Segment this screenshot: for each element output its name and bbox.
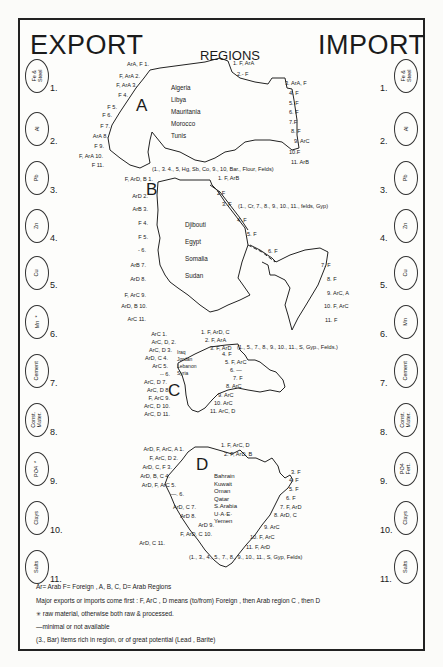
region-d-import-label: 7. F, ArD bbox=[280, 505, 301, 511]
commodity-label: Cement bbox=[34, 361, 40, 380]
commodity-label: Clays bbox=[34, 511, 40, 525]
export-commodity-number: 10. bbox=[50, 525, 63, 535]
import-commodity-oval: Pb bbox=[394, 161, 418, 195]
region-a-rich-items: (1., 3. 4., 5, Hg, Sb, Co, 9., 10, Bar.,… bbox=[152, 167, 274, 173]
region-d-import-label: 2. F, ArD, B bbox=[224, 452, 252, 458]
region-c-import-label: 9. ArC bbox=[218, 393, 234, 399]
region-d-import-label: 10. F, ArC bbox=[250, 535, 275, 541]
export-commodity-number: 8. bbox=[50, 427, 58, 437]
import-commodity-oval: Cement bbox=[394, 354, 418, 388]
export-commodity-number: 6. bbox=[50, 329, 58, 339]
region-d-import-label: 9. ArC bbox=[264, 525, 280, 531]
import-commodity-number: 1. bbox=[380, 83, 388, 93]
region-c-export-label: ArC, D 7. bbox=[144, 380, 167, 386]
import-commodity-oval: Clays bbox=[394, 501, 418, 535]
region-d-country: Yemen bbox=[214, 518, 232, 524]
import-commodity-number: 10. bbox=[380, 525, 393, 535]
import-commodity-number: 7. bbox=[380, 378, 388, 388]
region-a-import-label: 6. F bbox=[289, 110, 299, 116]
region-b-export-label: ArC 11. bbox=[127, 317, 146, 323]
region-a-import-label: 5. F bbox=[289, 101, 299, 107]
region-a-export-label: F 5. bbox=[107, 105, 117, 111]
commodity-label: Zn bbox=[403, 223, 409, 229]
import-commodity-oval: PO4 Fert. bbox=[394, 452, 418, 486]
import-commodity-number: 8. bbox=[380, 427, 388, 437]
region-a-import-label: 1. F, ArA bbox=[233, 61, 254, 67]
region-c-import-label: 6. — bbox=[230, 368, 242, 374]
region-a-export-label: ArA, F 1. bbox=[127, 62, 149, 68]
region-d-import-label: 8. ArD, C bbox=[274, 513, 297, 519]
import-commodity-oval: Cu bbox=[394, 256, 418, 290]
region-b-export-label: ArD 8. bbox=[130, 277, 146, 283]
region-d-export-label: ArD, F, ArC, A 1. bbox=[144, 447, 184, 453]
region-a-import-label: 10.F bbox=[289, 150, 300, 156]
commodity-label: PO4 Fert. bbox=[400, 463, 412, 474]
region-c-country: Jordan bbox=[177, 357, 192, 362]
region-b-import-label: 8. F bbox=[327, 277, 337, 283]
region-a-country: Mauritania bbox=[171, 109, 200, 115]
region-c-export-label: ArC, D 8. bbox=[147, 388, 170, 394]
import-commodity-number: 9. bbox=[380, 476, 388, 486]
region-a-export-label: F, ArA 10. bbox=[79, 154, 103, 160]
export-commodity-oval: Cement bbox=[25, 354, 49, 388]
commodity-label: PO4 * bbox=[34, 461, 40, 477]
region-a-export-label: F 6. bbox=[102, 113, 112, 119]
export-commodity-oval: Salts bbox=[25, 550, 49, 584]
region-b-import-label: 1. F, ArB bbox=[218, 176, 239, 182]
import-commodity-oval: Zn bbox=[394, 209, 418, 243]
commodity-label: Mn * bbox=[34, 316, 40, 329]
region-a-import-label: 4. F bbox=[289, 91, 299, 97]
region-b-rich-items: (1., Cr, 7., 8., 9., 10., 11., felds, Gy… bbox=[238, 204, 328, 210]
region-b-import-label: 6. F bbox=[268, 249, 278, 255]
import-commodity-number: 4. bbox=[380, 233, 388, 243]
commodity-label: Salts bbox=[403, 561, 409, 573]
region-c-import-label: 7. F bbox=[233, 376, 243, 382]
commodity-label: Salts bbox=[34, 561, 40, 573]
region-d-rich-items: (1., 3., 4., 5., 7., 8., 9., 10., 11., S… bbox=[189, 555, 302, 561]
export-commodity-oval: Fe & Steel bbox=[25, 59, 49, 93]
region-b-country: Sudan bbox=[185, 273, 203, 279]
region-c-import-label: 10. ArC bbox=[214, 401, 233, 407]
legend-minimal: —minimal or not available bbox=[36, 623, 110, 630]
export-commodity-oval: Clays bbox=[25, 501, 49, 535]
import-commodity-oval: Al bbox=[394, 112, 418, 146]
region-d-country: Qatar bbox=[214, 496, 229, 502]
region-a-import-label: 7.F bbox=[289, 120, 297, 126]
region-c-export-label: ArC, D 11. bbox=[144, 412, 170, 418]
region-a-country: Algeria bbox=[171, 85, 191, 91]
region-b-import-label: 10. F, ArC bbox=[324, 304, 349, 310]
region-d-import-label: 5. F bbox=[289, 487, 299, 493]
region-b-country: Egypt bbox=[185, 239, 201, 245]
region-b-export-label: F, ArD, B 1. bbox=[125, 177, 153, 183]
export-commodity-oval: PO4 * bbox=[25, 452, 49, 486]
export-commodity-number: 5. bbox=[50, 280, 58, 290]
legend-order-note: Major exports or imports come first : F,… bbox=[36, 597, 320, 604]
import-commodity-number: 11. bbox=[380, 574, 392, 584]
region-a-country: Libya bbox=[171, 97, 186, 103]
export-commodity-oval: Const. Mater. bbox=[25, 403, 49, 437]
region-d-letter: D bbox=[196, 455, 208, 475]
region-b-export-label: ArD 2. bbox=[132, 194, 148, 200]
region-b-import-label: 3. F bbox=[222, 202, 232, 208]
region-c-export-label: ArC, D 3. bbox=[149, 348, 172, 354]
region-d-country: Bahrain bbox=[214, 473, 235, 479]
region-a-letter: A bbox=[136, 96, 147, 116]
region-c-export-label: ArC 1. bbox=[151, 332, 167, 338]
import-commodity-number: 5. bbox=[380, 280, 388, 290]
commodity-label: Al bbox=[34, 127, 40, 132]
region-d-export-label: —. 6. bbox=[171, 492, 184, 498]
region-a-import-label: 3. ArA, F bbox=[285, 81, 307, 87]
commodity-label: Mn bbox=[403, 318, 409, 326]
commodity-label: Cu bbox=[403, 269, 409, 276]
region-a-country: Morocco bbox=[171, 121, 195, 127]
region-d-import-label: 3. F bbox=[291, 470, 301, 476]
region-c-import-label: 4. F bbox=[222, 352, 232, 358]
region-c-country: Lebanon bbox=[177, 364, 196, 369]
region-b-import-label: 4. F bbox=[237, 218, 247, 224]
commodity-label: Const. Mater. bbox=[31, 412, 43, 428]
region-d-country: Kuwait bbox=[214, 481, 232, 487]
region-c-country: Iraq bbox=[177, 350, 186, 355]
region-b-country: Somalia bbox=[185, 256, 208, 262]
region-d-export-label: ArD 8. bbox=[180, 514, 196, 520]
region-c-export-label: -- 6. bbox=[160, 372, 170, 378]
